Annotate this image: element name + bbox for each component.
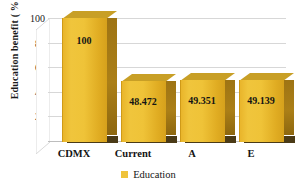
chart-legend: Education — [0, 169, 297, 180]
bar-value-label-e: 49.139 — [236, 95, 286, 106]
y-tick-label-60: 60 — [17, 62, 45, 73]
bar-value-label-current: 48.472 — [118, 96, 168, 107]
y-tick-label-20: 20 — [17, 111, 45, 122]
bar-front-face — [239, 80, 284, 142]
bar-side-face — [106, 18, 117, 135]
x-tick-label-current: Current — [105, 148, 161, 159]
bar-e[interactable]: 49.139 — [239, 73, 283, 142]
bar-side-face — [165, 81, 176, 135]
legend-label-education: Education — [133, 169, 176, 180]
bar-a[interactable]: 49.351 — [180, 73, 224, 142]
y-tick-label-80: 80 — [17, 38, 45, 49]
bar-front-face — [180, 80, 225, 142]
y-tick-label-0: 0 — [17, 136, 45, 147]
y-tick-label-40: 40 — [17, 87, 45, 98]
legend-swatch-education — [121, 171, 128, 178]
education-benefit-bar-chart: Education benefit ( % ) 100 80 60 40 20 … — [0, 0, 297, 190]
bar-side-face — [283, 80, 294, 135]
bar-value-label-a: 49.351 — [177, 95, 227, 106]
bar-cdmx[interactable]: 100 — [62, 11, 106, 142]
bar-front-face — [121, 81, 166, 142]
y-tick-label-100: 100 — [17, 13, 45, 24]
bar-value-label-cdmx: 100 — [62, 35, 106, 46]
bar-side-face — [224, 80, 235, 135]
bar-current[interactable]: 48.472 — [121, 74, 165, 142]
x-tick-label-e: E — [223, 148, 279, 159]
x-tick-label-cdmx: CDMX — [46, 148, 102, 159]
x-tick-label-a: A — [164, 148, 220, 159]
plot-area: 100 48.472 49.351 — [48, 18, 286, 142]
